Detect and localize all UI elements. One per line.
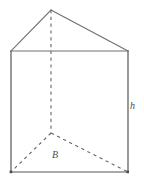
height-label: h xyxy=(130,101,135,111)
hidden-base-left-edge xyxy=(11,133,51,172)
apex-to-top-left-edge xyxy=(11,10,51,51)
base-label: B xyxy=(52,150,58,160)
vertex-dot-bottom-left xyxy=(10,171,13,174)
prism-drawing xyxy=(0,0,144,183)
apex-to-top-right-edge xyxy=(51,10,128,51)
hidden-base-right-edge xyxy=(51,133,128,172)
vertex-dot-bottom-right xyxy=(126,171,129,174)
prism-figure: h B xyxy=(0,0,144,183)
